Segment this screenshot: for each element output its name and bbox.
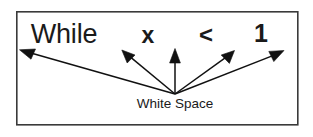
token-while: While <box>31 19 98 49</box>
white-space-token-diagram: While x < 1 White Space <box>0 0 313 137</box>
token-less-than: < <box>199 21 213 48</box>
white-space-caption: White Space <box>137 96 214 111</box>
diagram-canvas: While x < 1 White Space <box>0 0 313 137</box>
token-x: x <box>142 22 155 48</box>
token-one: 1 <box>254 19 268 47</box>
